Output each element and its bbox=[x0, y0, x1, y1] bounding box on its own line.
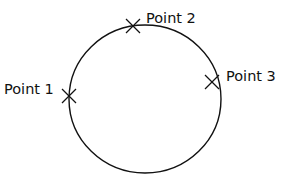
point-1: Point 1 bbox=[4, 81, 76, 103]
point-1-label: Point 1 bbox=[4, 81, 54, 97]
point-2-label: Point 2 bbox=[146, 10, 196, 26]
point-2: Point 2 bbox=[126, 10, 196, 33]
circle bbox=[69, 25, 221, 173]
circle-diagram: Point 1 Point 2 Point 3 bbox=[0, 0, 283, 175]
point-3-label: Point 3 bbox=[226, 68, 276, 84]
x-mark-icon bbox=[205, 75, 219, 89]
